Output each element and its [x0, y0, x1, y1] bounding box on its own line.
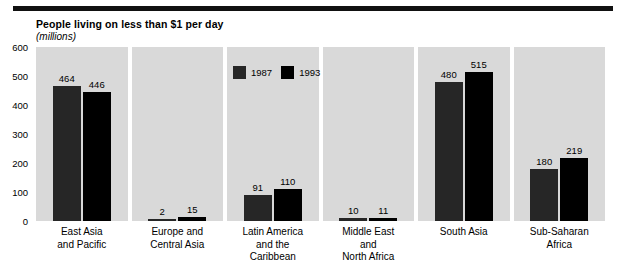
- y-axis-tick-label: 300: [12, 129, 28, 140]
- bar-value-label: 110: [280, 176, 295, 187]
- bar-1993[interactable]: [274, 189, 302, 221]
- x-axis-category-label: East Asia and Pacific: [57, 226, 106, 251]
- bar-1993[interactable]: [178, 217, 206, 221]
- plot-area: 464446215911101011480515180219: [36, 47, 605, 221]
- title-block: People living on less than $1 per day (m…: [36, 18, 224, 43]
- legend-item[interactable]: 1993: [281, 66, 320, 79]
- chart-panel: 1011: [323, 47, 415, 221]
- top-divider-rule: [13, 6, 613, 11]
- panel-inner: 464446: [36, 47, 128, 221]
- bar-1987[interactable]: [53, 86, 81, 221]
- y-axis-tick-label: 500: [12, 71, 28, 82]
- x-axis-category-label: Europe and Central Asia: [150, 226, 204, 251]
- panel-inner: 480515: [418, 47, 510, 221]
- y-axis-tick-label: 200: [12, 158, 28, 169]
- bar-1987[interactable]: [435, 82, 463, 221]
- x-axis-category-label: Middle East and North Africa: [342, 226, 394, 264]
- bar-value-label: 11: [378, 205, 388, 216]
- bar-value-label: 464: [59, 73, 75, 84]
- bar-value-label: 15: [187, 204, 198, 215]
- bar-value-label: 91: [252, 182, 263, 193]
- chart-panel: 180219: [514, 47, 606, 221]
- y-axis-tick-label: 600: [12, 42, 28, 53]
- chart-legend: 19871993: [233, 66, 320, 79]
- legend-swatch-icon: [281, 66, 294, 79]
- bar-1993[interactable]: [83, 92, 111, 221]
- legend-label: 1987: [251, 67, 272, 78]
- panel-inner: 215: [132, 47, 224, 221]
- bar-1993[interactable]: [465, 72, 493, 221]
- bar-value-label: 180: [536, 156, 552, 167]
- legend-swatch-icon: [233, 66, 246, 79]
- bar-value-label: 515: [471, 59, 487, 70]
- bar-value-label: 10: [348, 205, 359, 216]
- bar-value-label: 480: [441, 69, 457, 80]
- x-axis-category-label: South Asia: [440, 226, 488, 239]
- y-axis-tick-label: 400: [12, 100, 28, 111]
- legend-label: 1993: [299, 67, 320, 78]
- panel-inner: 180219: [514, 47, 606, 221]
- bar-value-label: 2: [160, 206, 165, 217]
- bar-1993[interactable]: [369, 218, 397, 221]
- chart-panel: 464446: [36, 47, 128, 221]
- bar-value-label: 219: [566, 145, 582, 156]
- panel-inner: 1011: [323, 47, 415, 221]
- chart-subtitle: (millions): [36, 31, 224, 43]
- chart-panel: 480515: [418, 47, 510, 221]
- y-axis-tick-label: 0: [23, 216, 28, 227]
- legend-item[interactable]: 1987: [233, 66, 272, 79]
- bar-1987[interactable]: [339, 218, 367, 221]
- bar-1993[interactable]: [560, 158, 588, 222]
- x-axis-category-label: Sub-Saharan Africa: [530, 226, 589, 251]
- bar-1987[interactable]: [244, 195, 272, 221]
- y-axis: 0100200300400500600: [0, 47, 36, 221]
- bar-1987[interactable]: [530, 169, 558, 221]
- chart-panel: 215: [132, 47, 224, 221]
- bar-value-label: 446: [89, 79, 105, 90]
- bar-1987[interactable]: [148, 219, 176, 221]
- chart-title: People living on less than $1 per day: [36, 18, 224, 31]
- x-axis-category-label: Latin America and the Caribbean: [242, 226, 303, 264]
- y-axis-tick-label: 100: [12, 187, 28, 198]
